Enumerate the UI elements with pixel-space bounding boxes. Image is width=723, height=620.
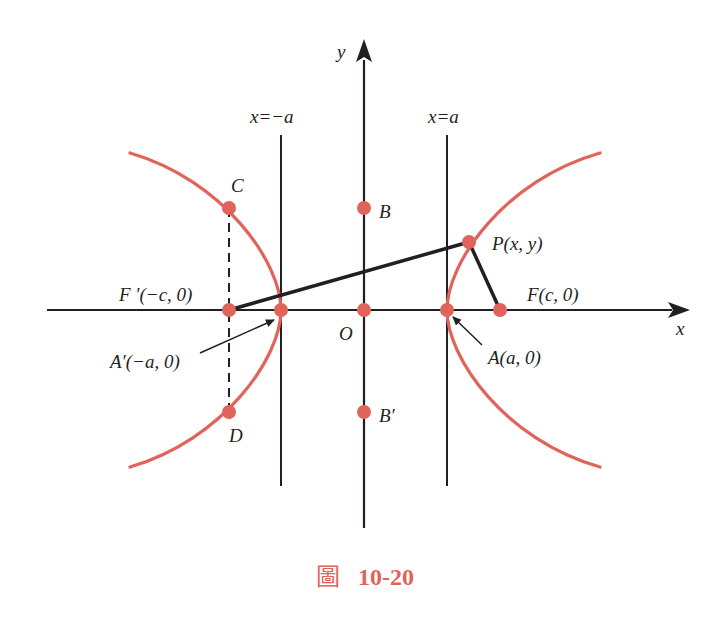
point-a (440, 303, 454, 317)
point-f-prime (222, 303, 236, 317)
directrix-left-label: x=−a (249, 106, 294, 127)
directrix-right-label: x=a (427, 106, 459, 127)
label-f: F(c, 0) (526, 284, 579, 306)
caption-number: 10-20 (358, 564, 414, 590)
origin-label: O (339, 323, 353, 344)
y-axis-arrow-icon (356, 39, 372, 62)
hyperbola-left-lower (130, 310, 281, 467)
point-d (222, 405, 236, 419)
focal-radius-left (229, 242, 469, 310)
pointer-arrow-a-prime (200, 320, 274, 353)
figure-caption: 圖 10-20 (316, 563, 414, 591)
point-f (493, 303, 507, 317)
point-a-prime (274, 303, 288, 317)
y-axis-label: y (335, 41, 346, 62)
caption-prefix: 圖 (316, 563, 340, 591)
label-a-prime: A′(−a, 0) (108, 351, 180, 373)
point-origin (357, 303, 371, 317)
hyperbola-diagram: y x O x=−a x=a C D B B′ P(x, y) F(c, 0) … (0, 0, 723, 620)
point-b (357, 201, 371, 215)
point-c (222, 201, 236, 215)
point-p (462, 235, 476, 249)
label-d: D (228, 425, 243, 446)
y-axis (356, 39, 372, 528)
label-b-prime: B′ (379, 405, 396, 426)
label-f-prime: F ′(−c, 0) (118, 284, 192, 306)
label-a: A(a, 0) (486, 347, 541, 369)
label-p: P(x, y) (491, 233, 543, 255)
label-b: B (379, 201, 391, 222)
point-b-prime (357, 405, 371, 419)
pointer-arrow-a (453, 317, 482, 345)
x-axis-label: x (675, 318, 685, 339)
label-c: C (231, 175, 244, 196)
